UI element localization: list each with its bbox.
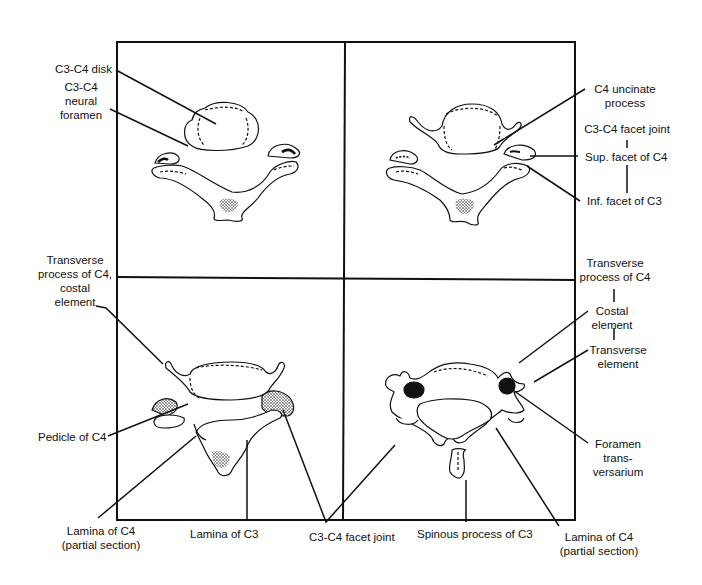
label-transverse-process-c4: Transverse process of C4 [572, 256, 658, 284]
label-spinous-process-c3: Spinous process of C3 [417, 527, 533, 541]
vertebra-diagram: C3-C4 disk C3-C4 neural foramen C4 uncin… [0, 0, 702, 585]
panel-top-left-drawing [152, 102, 300, 221]
label-lamina-c3: Lamina of C3 [190, 527, 258, 541]
label-inf-facet-c3: Inf. facet of C3 [587, 194, 662, 208]
label-costal-element: Costal element [585, 304, 639, 332]
label-lamina-c4-left: Lamina of C4 (partial section) [56, 524, 146, 552]
label-c3c4-disk: C3-C4 disk [22, 62, 112, 76]
panel-top-right-drawing [387, 104, 536, 225]
label-c4-uncinate-process: C4 uncinate process [580, 82, 670, 110]
label-transverse-element: Transverse element [582, 343, 654, 371]
label-c3c4-neural-foramen: C3-C4 neural foramen [50, 80, 112, 122]
label-transverse-process-costal-element: Transverse process of C4, costal element [30, 253, 120, 309]
label-c3c4-facet-joint-bottom: C3-C4 facet joint [309, 530, 395, 544]
panel-bottom-right-drawing [386, 363, 525, 478]
label-pedicle-c4: Pedicle of C4 [38, 430, 106, 444]
leader-lines [96, 70, 627, 526]
label-foramen-transversarium: Foramen trans- versarium [585, 437, 651, 479]
label-lamina-c4-right: Lamina of C4 (partial section) [553, 530, 645, 558]
panel-frame [117, 42, 575, 520]
label-sup-facet-c4: Sup. facet of C4 [585, 150, 667, 164]
panel-bottom-left-drawing [152, 362, 294, 476]
label-c3c4-facet-joint-top: C3-C4 facet joint [575, 122, 679, 136]
